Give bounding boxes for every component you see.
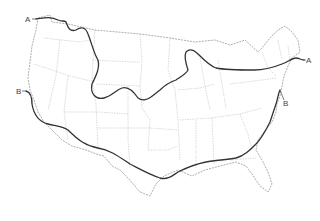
us-map: A A B B bbox=[0, 0, 320, 221]
boundary-line-a bbox=[36, 18, 304, 100]
label-b-west: B bbox=[16, 87, 21, 96]
label-b-east: B bbox=[283, 99, 288, 108]
us-outline bbox=[28, 15, 300, 196]
label-a-east: A bbox=[306, 56, 312, 65]
boundary-line-b bbox=[26, 90, 280, 179]
state-borders bbox=[34, 30, 290, 168]
label-a-west: A bbox=[25, 15, 31, 24]
